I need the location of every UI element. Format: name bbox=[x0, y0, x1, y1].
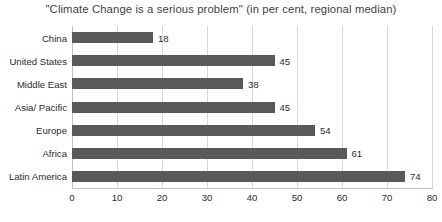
y-axis-label: Africa bbox=[42, 148, 67, 159]
bar bbox=[72, 32, 153, 43]
x-axis-tick-label: 0 bbox=[69, 192, 74, 203]
y-axis-label: Europe bbox=[36, 125, 67, 136]
y-axis-label: China bbox=[42, 32, 67, 43]
gridline bbox=[432, 26, 433, 188]
bar bbox=[72, 78, 243, 89]
bar-row: 61 bbox=[72, 148, 432, 159]
x-axis-tick-labels: 01020304050607080 bbox=[0, 192, 442, 210]
x-axis-tick-label: 70 bbox=[382, 192, 393, 203]
bar-value-label: 38 bbox=[248, 78, 259, 89]
bar-row: 45 bbox=[72, 102, 432, 113]
y-axis-label: United States bbox=[9, 55, 67, 66]
bar bbox=[72, 55, 275, 66]
chart-title: "Climate Change is a serious problem" (i… bbox=[0, 3, 442, 15]
x-axis-tick-label: 40 bbox=[247, 192, 258, 203]
plot-area: 18453845546174 bbox=[72, 26, 432, 188]
x-axis-tick-label: 60 bbox=[337, 192, 348, 203]
x-axis-tick-label: 80 bbox=[427, 192, 438, 203]
y-axis-label: Middle East bbox=[17, 78, 67, 89]
bar-chart: "Climate Change is a serious problem" (i… bbox=[0, 0, 442, 222]
bar-value-label: 61 bbox=[352, 148, 363, 159]
bar-row: 18 bbox=[72, 32, 432, 43]
bar-series: 18453845546174 bbox=[72, 26, 432, 188]
bar bbox=[72, 171, 405, 182]
bar bbox=[72, 125, 315, 136]
bar bbox=[72, 102, 275, 113]
y-axis-label: Latin America bbox=[9, 171, 67, 182]
x-axis-tick-label: 20 bbox=[157, 192, 168, 203]
bar-value-label: 45 bbox=[280, 55, 291, 66]
bar bbox=[72, 148, 347, 159]
bar-value-label: 45 bbox=[280, 102, 291, 113]
x-axis-tick-label: 10 bbox=[112, 192, 123, 203]
x-axis-line bbox=[72, 188, 433, 189]
bar-value-label: 54 bbox=[320, 125, 331, 136]
bar-row: 74 bbox=[72, 171, 432, 182]
x-axis-tick-label: 50 bbox=[292, 192, 303, 203]
bar-row: 45 bbox=[72, 55, 432, 66]
bar-value-label: 74 bbox=[410, 171, 421, 182]
x-axis-tick-label: 30 bbox=[202, 192, 213, 203]
y-axis-label: Asia/ Pacific bbox=[15, 102, 67, 113]
bar-value-label: 18 bbox=[158, 32, 169, 43]
bar-row: 38 bbox=[72, 78, 432, 89]
y-axis-category-labels: ChinaUnited StatesMiddle EastAsia/ Pacif… bbox=[0, 26, 72, 188]
bar-row: 54 bbox=[72, 125, 432, 136]
